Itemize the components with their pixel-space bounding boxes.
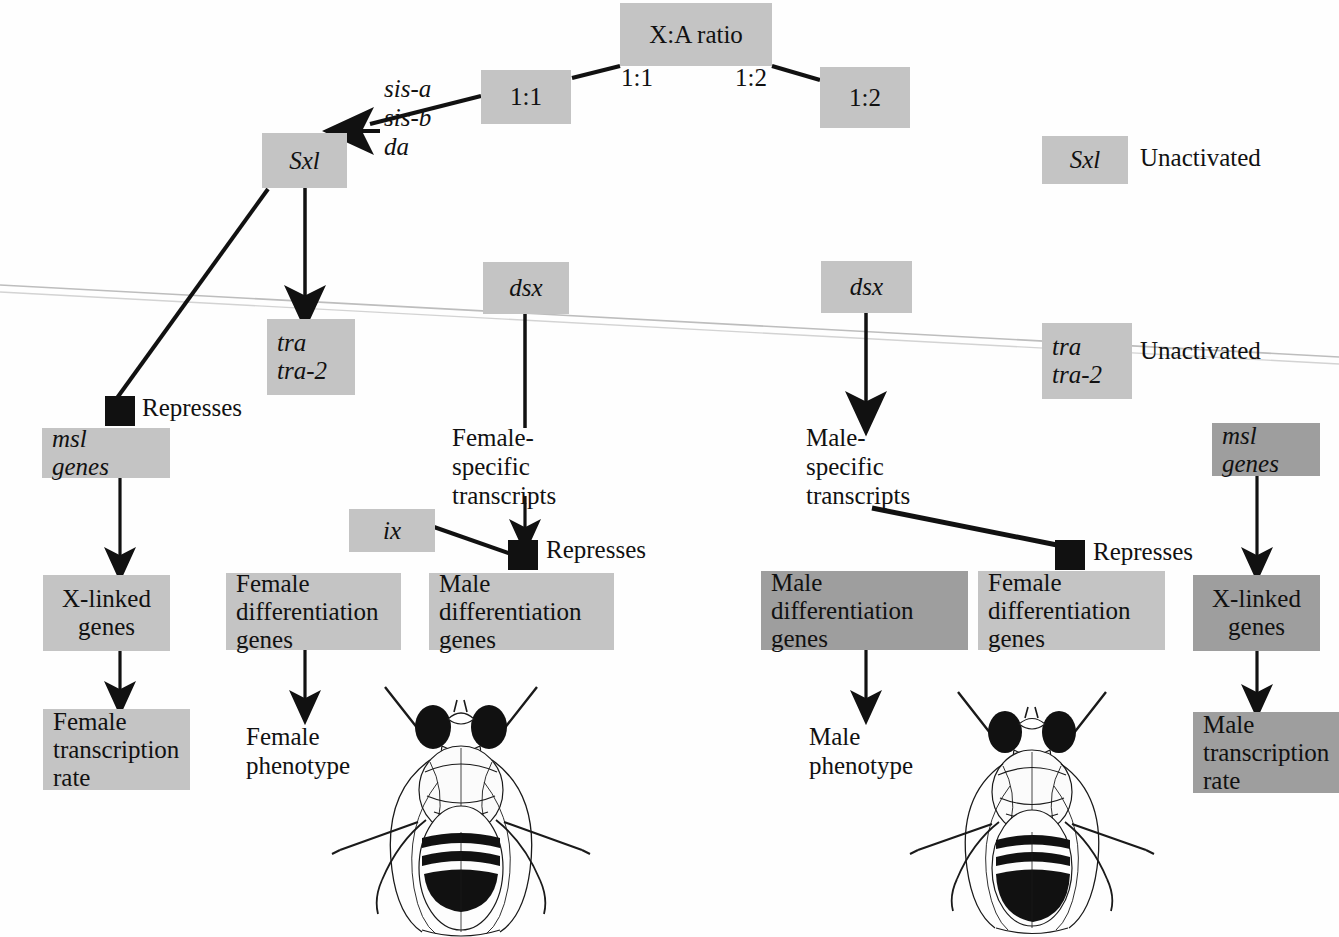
box-msl-genes-female: msl genes bbox=[42, 428, 170, 478]
label-represses-right: Represses bbox=[1093, 537, 1193, 566]
box-ratio-1-1: 1:1 bbox=[481, 70, 571, 124]
repressor-square-right bbox=[1055, 540, 1085, 570]
label-edge-1-2: 1:2 bbox=[735, 63, 767, 92]
box-ix: ix bbox=[349, 509, 435, 552]
label-male-phenotype: Male phenotype bbox=[809, 722, 913, 780]
box-x-linked-genes-female: X-linked genes bbox=[43, 575, 170, 651]
box-female-differentiation-genes-right: Female differentiation genes bbox=[978, 571, 1165, 650]
box-xa-ratio: X:A ratio bbox=[620, 3, 772, 66]
label-edge-1-1: 1:1 bbox=[621, 63, 653, 92]
label-represses-middle: Represses bbox=[546, 535, 646, 564]
box-female-differentiation-genes-left: Female differentiation genes bbox=[226, 573, 401, 650]
box-tra-activated: tra tra-2 bbox=[267, 319, 355, 395]
box-ratio-1-2: 1:2 bbox=[820, 67, 910, 128]
box-x-linked-genes-male: X-linked genes bbox=[1193, 575, 1320, 651]
box-msl-genes-male: msl genes bbox=[1212, 423, 1320, 476]
label-represses-left: Represses bbox=[142, 393, 242, 422]
label-tra-unactivated: Unactivated bbox=[1140, 336, 1261, 365]
diagram-canvas: X:A ratio 1:1 1:2 Sxl Sxl tra tra-2 tra … bbox=[0, 0, 1339, 937]
male-fly bbox=[908, 680, 1156, 936]
box-sxl-unactivated: Sxl bbox=[1042, 136, 1128, 184]
box-male-differentiation-genes-right: Male differentiation genes bbox=[761, 571, 968, 650]
label-female-phenotype: Female phenotype bbox=[246, 722, 350, 780]
label-sxl-unactivated: Unactivated bbox=[1140, 143, 1261, 172]
box-sxl-activated: Sxl bbox=[262, 133, 347, 188]
label-male-specific-transcripts: Male- specific transcripts bbox=[806, 423, 910, 510]
label-female-specific-transcripts: Female- specific transcripts bbox=[452, 423, 556, 510]
box-male-differentiation-genes-left: Male differentiation genes bbox=[429, 573, 614, 650]
female-fly bbox=[330, 672, 592, 937]
label-sis-genes: sis-a sis-b da bbox=[384, 74, 431, 161]
box-tra-unactivated: tra tra-2 bbox=[1042, 323, 1132, 399]
box-female-transcription-rate: Female transcription rate bbox=[43, 709, 190, 790]
repressor-square-left bbox=[105, 396, 135, 426]
box-dsx-female: dsx bbox=[483, 262, 569, 314]
repressor-square-middle bbox=[508, 540, 538, 570]
box-male-transcription-rate: Male transcription rate bbox=[1193, 712, 1339, 793]
box-dsx-male: dsx bbox=[821, 261, 912, 313]
